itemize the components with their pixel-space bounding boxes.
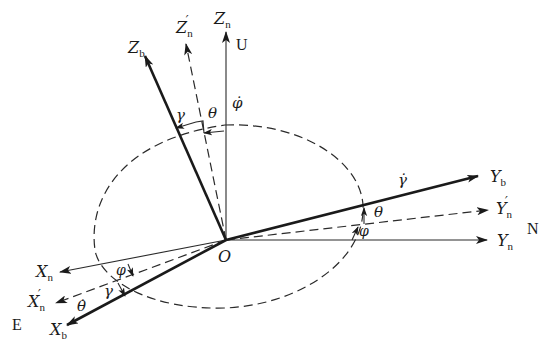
label-yb: Yb [490, 167, 507, 188]
label-east: E [12, 316, 22, 333]
label-north: N [527, 220, 539, 237]
label-yn-prime: Yn′ [496, 195, 513, 220]
label-phi-left: φ [116, 262, 126, 278]
label-gamma-left: γ [104, 282, 113, 300]
label-yn: Yn [497, 231, 514, 252]
axis-xn [60, 240, 226, 272]
axis-xn-prime [56, 240, 226, 303]
axis-yb [226, 176, 478, 240]
axis-zn-prime [186, 44, 226, 240]
axis-yn-prime [226, 210, 488, 240]
diagram-canvas: Zn Zn′ Zb U Yb Yn′ Yn N Xn Xn′ Xb E O φ̇… [0, 0, 543, 346]
label-up: U [236, 36, 248, 53]
label-theta-top: θ [208, 104, 217, 122]
label-xb: Xb [48, 320, 67, 341]
label-theta-right: θ [374, 203, 383, 221]
phi-arc-right [352, 227, 358, 240]
phi-arc-left [128, 264, 133, 276]
label-gamma-dot: γ̇ [398, 171, 407, 189]
axis-xb [67, 240, 226, 325]
label-zn: Zn [213, 9, 231, 30]
label-theta-dot: θ̇ [77, 297, 86, 315]
label-phi-right: φ [359, 223, 369, 239]
theta-arc-top [204, 131, 224, 133]
label-gamma-top: γ [176, 106, 185, 124]
label-zn-prime: Zn′ [175, 14, 193, 39]
label-xn: Xn [34, 262, 53, 283]
label-xn-prime: Xn′ [26, 288, 45, 313]
label-phi-dot: φ̇ [232, 94, 243, 112]
label-zb: Zb [127, 38, 145, 59]
label-origin: O [218, 247, 231, 266]
axis-zb [145, 56, 226, 240]
